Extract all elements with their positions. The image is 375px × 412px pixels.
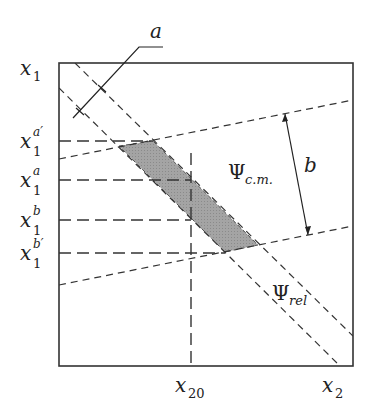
label-b: b (304, 153, 317, 177)
label-a: a (150, 19, 162, 43)
svg-text:1: 1 (33, 183, 41, 198)
svg-text:20: 20 (188, 386, 205, 401)
label-psi-cm: Ψ c.m. (228, 160, 273, 187)
svg-text:2: 2 (335, 386, 343, 401)
svg-text:b: b (33, 204, 41, 218)
tick-label-x20: x 20 (175, 373, 205, 401)
svg-text:c.m.: c.m. (245, 172, 273, 187)
svg-text:1: 1 (33, 256, 41, 271)
tick-label-x1-a: x 1 a (20, 164, 41, 198)
axis-label-x2: x 2 (322, 373, 343, 401)
svg-text:1: 1 (33, 223, 41, 238)
width-a-leader (73, 47, 163, 118)
tick-label-x1-b-prime: x 1 b′ (20, 237, 44, 271)
svg-text:a′: a′ (33, 125, 43, 139)
svg-text:1: 1 (33, 69, 41, 84)
psi-cm-upper-boundary (59, 100, 353, 159)
psi-rel-lower-boundary (59, 88, 340, 366)
svg-text:x: x (20, 129, 31, 153)
svg-text:x: x (20, 56, 31, 80)
svg-text:x: x (20, 168, 31, 192)
tick-label-x1-b: x 1 b (20, 204, 41, 238)
svg-text:Ψ: Ψ (228, 160, 246, 184)
psi-rel-upper-boundary (75, 63, 353, 336)
svg-text:rel: rel (289, 293, 307, 308)
width-b-arrowhead-top (282, 114, 288, 122)
svg-text:Ψ: Ψ (272, 281, 290, 305)
tick-label-x1-a-prime: x 1 a′ (20, 125, 43, 159)
svg-text:a: a (33, 164, 40, 178)
svg-text:1: 1 (33, 144, 41, 159)
svg-text:x: x (322, 373, 333, 397)
svg-text:x: x (20, 208, 31, 232)
phase-space-diagram: a b Ψ c.m. Ψ rel x 1 x 2 x 20 x 1 a′ x 1… (0, 0, 375, 412)
svg-text:b′: b′ (33, 237, 44, 251)
psi-cm-lower-boundary (59, 226, 353, 285)
svg-text:x: x (175, 373, 186, 397)
svg-text:x: x (20, 241, 31, 265)
width-b-arrowhead-bottom (305, 226, 311, 235)
axis-label-x1: x 1 (20, 56, 41, 84)
overlap-region (119, 141, 258, 252)
